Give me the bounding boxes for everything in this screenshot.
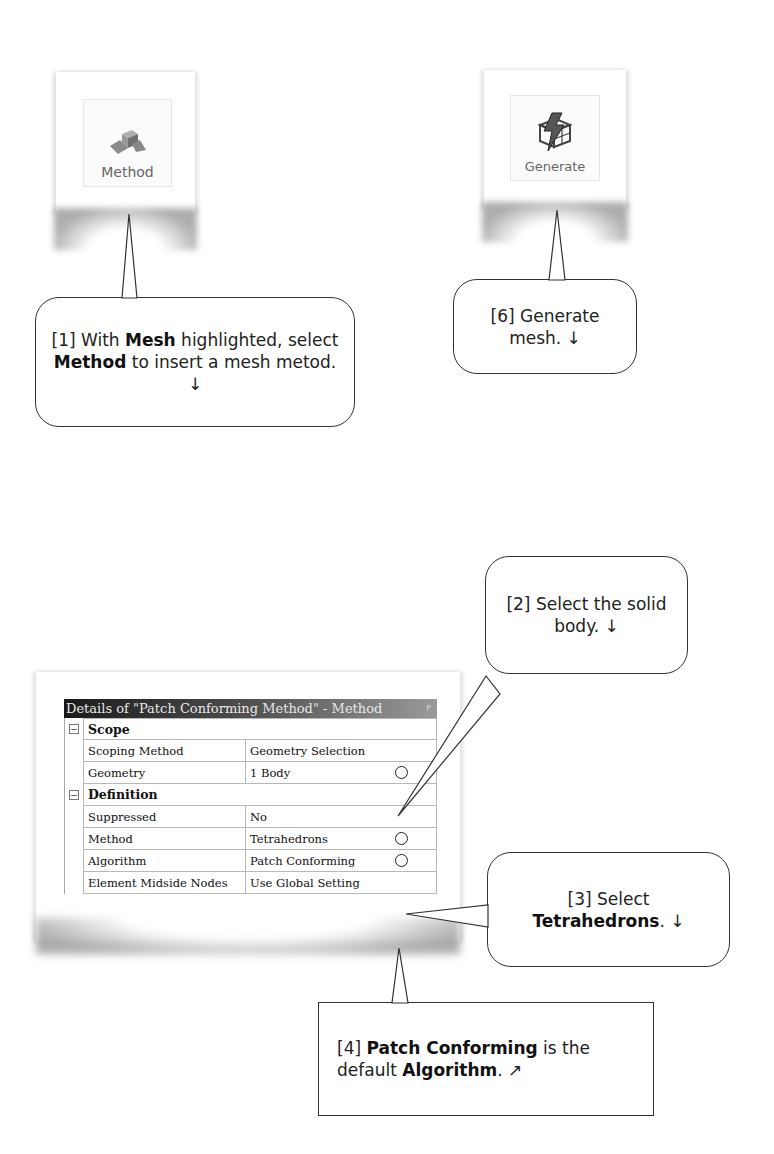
snippet-shadow [482, 202, 628, 242]
circle-marker-icon [395, 766, 408, 779]
table-row[interactable]: Geometry 1 Body [64, 762, 437, 784]
table-row[interactable]: Algorithm Patch Conforming [64, 850, 437, 872]
details-title: Details of "Patch Conforming Method" - M… [66, 701, 382, 716]
table-row[interactable]: Suppressed No [64, 806, 437, 828]
method-button-label: Method [101, 164, 154, 180]
collapse-toggle-icon[interactable]: − [69, 724, 79, 734]
details-title-bar: Details of "Patch Conforming Method" - M… [64, 699, 437, 718]
table-row[interactable]: Scoping Method Geometry Selection [64, 740, 437, 762]
callout-step-3: [3] Select Tetrahedrons. ↓ [487, 852, 730, 967]
arrow-down-icon: ↓ [670, 911, 684, 931]
method-blocks-icon [106, 126, 150, 160]
arrow-down-icon: ↓ [567, 328, 581, 348]
arrow-up-right-icon: ↗ [508, 1060, 522, 1080]
generate-button-label: Generate [525, 159, 586, 174]
circle-marker-icon [395, 854, 408, 867]
pin-icon[interactable]: ᵖ [427, 699, 431, 718]
callout-step-4: [4] Patch Conforming is the default Algo… [318, 1002, 654, 1116]
method-button[interactable]: Method [83, 99, 172, 187]
details-panel: Details of "Patch Conforming Method" - M… [64, 699, 437, 894]
table-row[interactable]: Element Midside Nodes Use Global Setting [64, 872, 437, 894]
arrow-down-icon: ↓ [188, 374, 202, 394]
panel-shadow [36, 918, 460, 954]
circle-marker-icon [395, 832, 408, 845]
generate-button[interactable]: Generate [510, 95, 600, 181]
section-header-scope[interactable]: − Scope [64, 718, 437, 740]
generate-lightning-mesh-icon [532, 111, 578, 155]
collapse-toggle-icon[interactable]: − [69, 790, 79, 800]
callout-step-2: [2] Select the solid body. ↓ [485, 556, 688, 674]
arrow-down-icon: ↓ [605, 616, 619, 636]
table-row[interactable]: Method Tetrahedrons [64, 828, 437, 850]
callout-step-1: [1] With Mesh highlighted, select Method… [35, 297, 355, 427]
callout-step-6: [6] Generate mesh. ↓ [453, 279, 637, 374]
snippet-shadow [54, 208, 197, 250]
section-header-definition[interactable]: − Definition [64, 784, 437, 806]
